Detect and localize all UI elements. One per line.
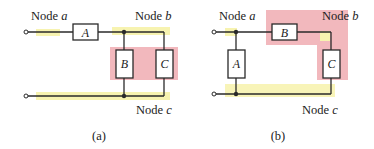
terminal-b-bottom [212,92,216,96]
element-c-label-b: C [327,57,336,71]
node-c-label: Node c [136,103,172,117]
caption-a: (a) [92,129,106,143]
junction-dot-a-b [234,30,238,34]
circuit-figure: A B C Node a Node b Node c (a) [0,0,374,149]
node-c-label-b: Node c [302,103,338,117]
junction-dot-b [122,30,126,34]
terminal-b-top [212,30,216,34]
element-b-label-b: B [281,26,289,40]
element-b-label: B [121,57,129,71]
node-a-label-b: Node a [219,9,255,23]
element-a-label: A [81,26,90,40]
node-c-highlight-b [225,84,335,97]
node-b-label: Node b [135,9,171,23]
element-a-label-b: A [232,57,241,71]
element-c-label: C [160,57,169,71]
caption-b: (b) [271,129,286,143]
junction-dot-c [122,94,126,98]
node-b-highlight [112,27,170,35]
panel-a: A B C Node a Node b Node c (a) [24,9,178,143]
panel-b: A B C Node a Node b Node c (b) [212,9,358,143]
terminal-a-top [24,30,28,34]
terminal-a-bottom [24,94,28,98]
junction-dot-c-b [234,92,238,96]
node-a-label: Node a [31,9,67,23]
node-b-label-b: Node b [322,9,358,23]
